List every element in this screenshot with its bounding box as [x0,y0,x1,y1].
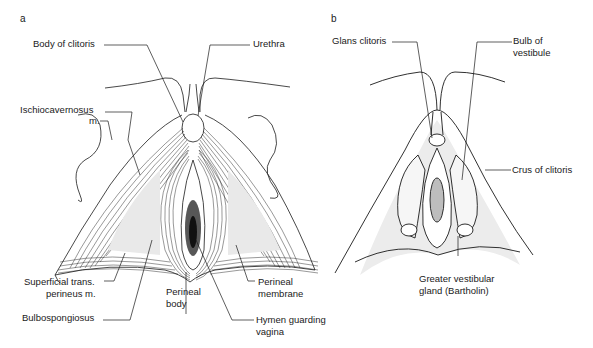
label-bulb-of-vestibule: Bulb of [513,35,543,46]
panel-b-illustration [0,0,593,348]
label-bulb-of-vestibule-2: vestibule [513,47,551,58]
label-glans-clitoris: Glans clitoris [332,35,386,46]
label-crus-of-clitoris: Crus of clitoris [512,164,572,175]
label-greater-vestibular-gland-2: gland (Bartholin) [419,285,489,296]
label-greater-vestibular-gland: Greater vestibular [419,273,495,284]
